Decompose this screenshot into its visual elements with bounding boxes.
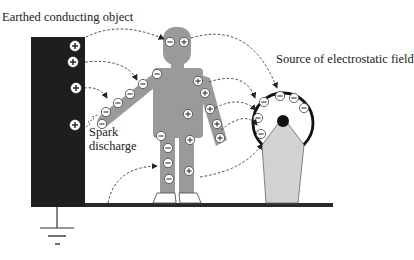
spark-icon [86, 115, 98, 127]
ground-icon [40, 207, 74, 244]
shoes [153, 193, 201, 203]
